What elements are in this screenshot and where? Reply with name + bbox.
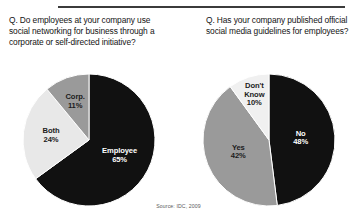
pie-svg-right: No48%Yes42%Don'tKnow10% [202, 73, 336, 207]
pie-svg-left: Employee65%Both24%Corp.11% [22, 73, 156, 207]
question-text-right: Q. Has your company published official s… [206, 15, 353, 37]
pie-slice-label: Yes42% [231, 143, 246, 161]
question-text-left: Q. Do employees at your company use soci… [9, 15, 167, 48]
pie-slice-label: Both24% [43, 126, 60, 144]
chart-panel-right: Q. Has your company published official s… [180, 0, 357, 219]
pie-chart-left: Employee65%Both24%Corp.11% [22, 73, 156, 207]
pie-slice-label: Don'tKnow10% [244, 81, 264, 107]
chart-panel-left: Q. Do employees at your company use soci… [0, 0, 180, 219]
source-note: Source: IDC, 2009 [0, 203, 357, 209]
pie-slice-label: Corp.11% [65, 92, 84, 110]
pie-chart-right: No48%Yes42%Don'tKnow10% [202, 73, 336, 207]
figure-root: Q. Do employees at your company use soci… [0, 0, 357, 219]
